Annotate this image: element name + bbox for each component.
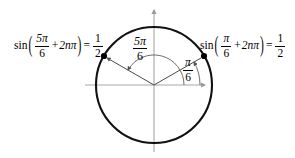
angle-denominator-right: 6 xyxy=(222,48,230,60)
close-paren-left: ) xyxy=(77,34,83,58)
angle-label-numerator-small: π xyxy=(184,57,192,69)
equals-sign-left: = xyxy=(82,40,91,52)
open-paren-left: ( xyxy=(27,34,33,58)
value-numerator-right: 1 xyxy=(277,33,285,45)
period-term-right: 2nπ xyxy=(242,40,259,52)
angle-label-denominator-large: 6 xyxy=(136,50,144,62)
plus-sign-left: + xyxy=(51,40,60,52)
angle-fraction-left: 5π 6 xyxy=(33,33,51,59)
plus-sign-right: + xyxy=(233,40,242,52)
value-fraction-right: 1 2 xyxy=(273,33,287,59)
angle-label-fraction-large: 5π 6 xyxy=(131,35,149,62)
angle-label-fraction-small: π 6 xyxy=(181,57,195,83)
sin-function-left: sin xyxy=(14,40,27,52)
equals-sign-right: = xyxy=(265,40,274,52)
angle-label-denominator-small: 6 xyxy=(184,72,192,84)
open-paren-right: ( xyxy=(213,34,219,58)
angle-label-5pi-over-6: 5π 6 xyxy=(131,35,149,62)
angle-fraction-right: π 6 xyxy=(219,33,233,59)
period-term-left: 2nπ xyxy=(59,40,76,52)
angle-numerator-left: 5π xyxy=(35,33,49,45)
equation-left: sin ( 5π 6 + 2nπ ) = 1 2 xyxy=(14,33,105,59)
angle-denominator-left: 6 xyxy=(38,48,46,60)
unit-circle-diagram xyxy=(0,0,295,158)
value-denominator-right: 2 xyxy=(277,48,285,60)
sin-function-right: sin xyxy=(200,40,213,52)
unit-circle-figure: sin ( 5π 6 + 2nπ ) = 1 2 sin ( π xyxy=(0,0,295,158)
equation-right: sin ( π 6 + 2nπ ) = 1 2 xyxy=(200,33,287,59)
angle-label-numerator-large: 5π xyxy=(133,35,147,47)
angle-label-pi-over-6: π 6 xyxy=(181,57,195,83)
angle-numerator-right: π xyxy=(222,33,230,45)
value-denominator-left: 2 xyxy=(94,48,102,60)
close-paren-right: ) xyxy=(259,34,265,58)
value-fraction-left: 1 2 xyxy=(91,33,105,59)
value-numerator-left: 1 xyxy=(94,33,102,45)
